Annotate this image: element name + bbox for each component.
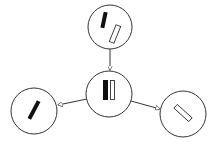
- edge-center-to-right: [131, 101, 160, 109]
- node-center: [86, 71, 132, 117]
- node-top-circle: [88, 5, 132, 49]
- node-top: [88, 5, 132, 49]
- node-right: [160, 91, 206, 137]
- node-left: [11, 88, 57, 134]
- diagram-canvas: [0, 0, 214, 153]
- node-center-circle: [86, 71, 132, 117]
- edge-center-to-left: [58, 99, 87, 105]
- hollow-bar-icon: [111, 81, 115, 100]
- filled-bar-icon: [103, 80, 108, 100]
